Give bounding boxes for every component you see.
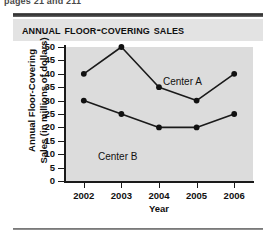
series-label-center-a: Center A [163,76,202,87]
data-point-center-b-2003 [119,111,125,117]
series-plot [13,41,263,216]
data-point-center-b-2002 [81,98,87,104]
series-line-center-a [84,47,234,101]
x-axis-title: Year [65,203,253,214]
data-point-center-a-2004 [156,84,162,90]
data-point-center-a-2002 [81,71,87,77]
data-point-center-b-2006 [231,111,237,117]
chart-figure: Annual Floor-Covering Sales (in millions… [13,41,263,216]
bottom-divider-rule [13,228,263,230]
data-point-center-b-2004 [156,125,162,131]
page-header-text: pages 21 and 211 [4,0,204,6]
data-point-center-a-2003 [119,44,125,50]
series-label-center-b: Center B [98,151,137,162]
data-point-center-b-2005 [194,125,200,131]
series-line-center-b [84,101,234,128]
data-point-center-a-2005 [194,98,200,104]
top-divider-rule [13,13,263,17]
data-point-center-a-2006 [231,71,237,77]
